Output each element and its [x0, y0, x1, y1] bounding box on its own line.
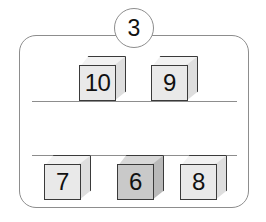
- problem-number-badge: 3: [114, 8, 154, 48]
- cube-label: 8: [192, 170, 205, 194]
- worksheet-figure: 10 9 7 6 8 3: [0, 0, 266, 222]
- cube-label: 6: [129, 170, 142, 194]
- number-cube-8[interactable]: 8: [180, 155, 218, 193]
- number-cube-10[interactable]: 10: [79, 56, 117, 94]
- cube-front-face: 9: [151, 65, 188, 101]
- cube-front-face: 8: [180, 164, 217, 200]
- cube-label: 9: [163, 71, 176, 95]
- cube-label: 7: [56, 170, 69, 194]
- number-cube-6[interactable]: 6: [117, 155, 155, 193]
- number-cube-9[interactable]: 9: [151, 56, 189, 94]
- cube-label: 10: [85, 71, 111, 95]
- cube-front-face: 6: [117, 164, 154, 200]
- problem-number-label: 3: [128, 17, 141, 40]
- cube-front-face: 10: [79, 65, 116, 101]
- cube-front-face: 7: [44, 164, 81, 200]
- upper-shelf-line: [32, 101, 237, 102]
- number-cube-7[interactable]: 7: [44, 155, 82, 193]
